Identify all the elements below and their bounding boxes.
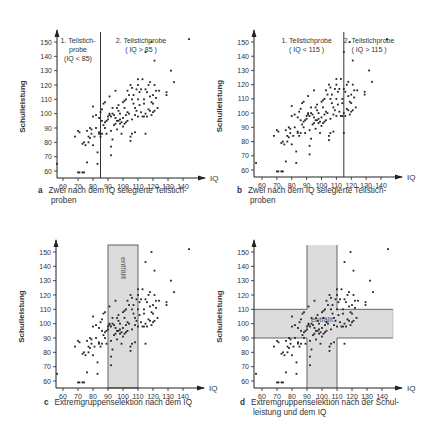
data-point	[342, 326, 344, 328]
data-point	[365, 301, 367, 303]
data-point	[294, 337, 296, 339]
caption-letter: d	[240, 398, 245, 407]
data-point	[321, 327, 323, 329]
data-point	[285, 340, 287, 342]
band-label: entfällt	[311, 315, 334, 324]
data-point	[324, 308, 326, 310]
y-tick-label: 100	[237, 320, 249, 327]
data-point	[314, 327, 316, 329]
data-point	[278, 341, 280, 343]
data-point	[302, 334, 304, 336]
data-point	[372, 291, 374, 293]
data-point	[308, 306, 310, 308]
data-point	[369, 280, 371, 282]
data-point	[291, 316, 293, 318]
y-axis-arrow-icon	[252, 239, 257, 247]
data-point	[330, 308, 332, 310]
data-point	[278, 382, 280, 384]
data-point	[339, 321, 341, 323]
data-point	[354, 307, 356, 309]
caption-letter: b	[237, 186, 242, 195]
data-point	[387, 248, 389, 250]
data-point	[288, 347, 290, 349]
data-point	[329, 350, 331, 352]
x-axis-arrow-icon	[395, 386, 403, 391]
data-point	[342, 308, 344, 310]
data-point	[341, 288, 343, 290]
data-point	[332, 304, 334, 306]
data-point	[273, 346, 275, 348]
data-point	[293, 346, 295, 348]
data-point	[344, 343, 346, 345]
data-point	[347, 294, 349, 296]
data-point	[357, 300, 359, 302]
data-point	[338, 314, 340, 316]
data-point	[327, 323, 329, 325]
caption-d: dExtremgruppenselektion nach der Schul- …	[240, 398, 399, 418]
data-point	[315, 339, 317, 341]
data-point	[311, 317, 313, 319]
data-point	[356, 317, 358, 319]
data-point	[348, 306, 350, 308]
data-point	[320, 331, 322, 333]
data-point	[315, 317, 317, 319]
data-point	[326, 330, 328, 332]
data-point	[342, 313, 344, 315]
data-point	[348, 291, 350, 293]
data-point	[351, 313, 353, 315]
caption-letter: a	[38, 186, 43, 195]
data-point	[291, 326, 293, 328]
data-point	[348, 320, 350, 322]
data-point	[330, 297, 332, 299]
data-point	[339, 298, 341, 300]
y-tick-label: 80	[241, 349, 249, 356]
data-point	[321, 336, 323, 338]
data-point	[305, 343, 307, 345]
data-point	[345, 301, 347, 303]
data-point	[312, 324, 314, 326]
y-tick-label: 70	[241, 363, 249, 370]
data-point	[344, 298, 346, 300]
data-point	[300, 318, 302, 320]
data-point	[317, 314, 319, 316]
data-point	[338, 301, 340, 303]
data-point	[329, 346, 331, 348]
data-point	[291, 354, 293, 356]
data-point	[306, 326, 308, 328]
y-tick-label: 110	[238, 306, 249, 313]
data-point	[350, 324, 352, 326]
data-point	[314, 300, 316, 302]
data-point	[327, 304, 329, 306]
data-point	[335, 298, 337, 300]
y-tick-label: 90	[241, 335, 249, 342]
y-tick-label: 150	[237, 249, 249, 256]
data-point	[287, 351, 289, 353]
data-point	[336, 326, 338, 328]
data-point	[296, 361, 298, 363]
data-point	[303, 337, 305, 339]
data-point	[282, 382, 284, 384]
data-point	[299, 321, 301, 323]
data-point	[290, 339, 292, 341]
y-tick-label: 140	[237, 263, 249, 270]
data-point	[333, 317, 335, 319]
caption-c: cExtremgruppenselektion nach dem IQ	[44, 398, 192, 408]
data-point	[282, 351, 284, 353]
data-point	[329, 294, 331, 296]
data-point	[353, 294, 355, 296]
caption-letter: c	[44, 398, 49, 407]
data-point	[297, 327, 299, 329]
data-point	[344, 323, 346, 325]
data-point	[333, 324, 335, 326]
data-point	[309, 356, 311, 358]
data-point	[300, 330, 302, 332]
data-point	[330, 343, 332, 345]
data-point	[309, 364, 311, 366]
data-point	[335, 320, 337, 322]
data-point	[353, 270, 355, 272]
data-point	[336, 308, 338, 310]
caption-b: bZwei nach dem IQ selegierte Teilstich- …	[237, 186, 386, 206]
data-point	[303, 311, 305, 313]
y-tick-label: 130	[237, 277, 249, 284]
data-point	[309, 340, 311, 342]
